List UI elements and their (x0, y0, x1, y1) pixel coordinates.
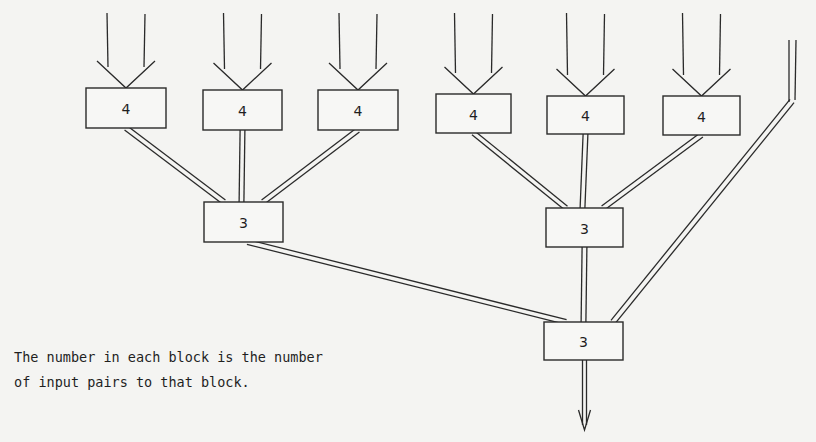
input-pair-arrow-top-6 (673, 13, 731, 96)
block-mid-left: 3 (204, 202, 283, 242)
block-top-1: 4 (86, 88, 166, 128)
arrowhead-icon (97, 61, 155, 88)
block-label: 4 (238, 103, 247, 119)
input-line-left (107, 13, 108, 67)
connections-layer (125, 40, 796, 324)
block-label: 4 (122, 101, 131, 117)
connection-mid-right-to-bottom (581, 247, 587, 322)
block-label: 4 (697, 109, 706, 125)
input-arrows-layer (97, 13, 731, 96)
arrowhead-icon (673, 69, 731, 96)
block-label: 3 (239, 215, 248, 231)
input-pair-arrow-top-2 (214, 13, 272, 90)
block-top-6: 4 (663, 96, 740, 135)
input-pair-arrow-top-3 (329, 13, 387, 90)
connection-top-2-to-mid-left (239, 130, 245, 202)
input-pair-arrow-top-5 (557, 13, 615, 96)
block-top-4: 4 (436, 94, 511, 133)
input-line-right (720, 14, 721, 75)
block-label: 3 (579, 334, 588, 350)
input-line-left (683, 13, 684, 75)
arrow-down-icon (579, 410, 591, 430)
connection-top-3-to-mid-left (262, 128, 360, 204)
input-pair-arrow-top-1 (97, 13, 155, 88)
block-top-3: 4 (318, 90, 398, 130)
block-label: 4 (354, 103, 363, 119)
block-bottom: 3 (544, 322, 623, 360)
input-line-right (261, 14, 262, 69)
connection-mid-left-to-bottom (247, 240, 567, 325)
connection-top-4-to-mid-right (472, 131, 568, 210)
arrowhead-icon (445, 67, 503, 94)
input-line-right (604, 14, 605, 75)
block-mid-right: 3 (546, 208, 623, 247)
input-pair-arrow-top-4 (445, 13, 503, 94)
arrowhead-icon (329, 63, 387, 90)
caption-line-1: The number in each block is the number (14, 345, 323, 370)
input-line-right (492, 14, 493, 73)
output-arrow (579, 360, 591, 430)
arrowhead-icon (214, 63, 272, 90)
connection-top-1-to-mid-left (125, 126, 226, 204)
block-label: 4 (469, 107, 478, 123)
connection-external-input-to-bottom (611, 40, 796, 324)
arrowhead-icon (557, 69, 615, 96)
caption: The number in each block is the number o… (14, 345, 323, 395)
block-top-2: 4 (203, 90, 282, 130)
block-top-5: 4 (547, 96, 624, 134)
input-line-right (144, 14, 145, 67)
input-line-left (339, 13, 340, 69)
input-line-left (567, 13, 568, 75)
connection-top-6-to-mid-right (602, 133, 703, 210)
block-label: 4 (581, 108, 590, 124)
input-line-left (455, 13, 456, 73)
input-line-right (376, 14, 377, 69)
connection-top-5-to-mid-right (580, 134, 588, 208)
input-line-left (224, 13, 225, 69)
caption-line-2: of input pairs to that block. (14, 370, 323, 395)
block-label: 3 (580, 221, 589, 237)
